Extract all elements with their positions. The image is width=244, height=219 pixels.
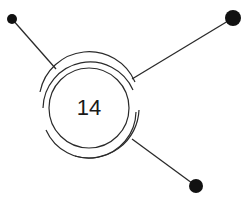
bottom-right-node-dot: [189, 179, 203, 193]
top-right-node-dot: [225, 10, 241, 26]
diagram-canvas: 14: [0, 0, 244, 219]
diagram-svg: [0, 0, 244, 219]
center-label: 14: [59, 91, 119, 125]
connector-top-right: [132, 18, 233, 79]
connector-top-left: [12, 19, 56, 69]
top-left-node-dot: [7, 14, 17, 24]
connector-bottom-right: [132, 139, 196, 186]
